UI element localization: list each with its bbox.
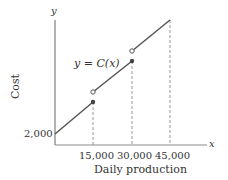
open-point-30000	[130, 49, 134, 53]
y-tick-2000: 2,000	[24, 128, 53, 139]
segment-3	[132, 20, 170, 51]
y-axis-label: Cost	[9, 72, 22, 102]
chart-plot	[0, 0, 228, 180]
segment-1	[55, 102, 93, 134]
x-tick-30000: 30,000	[117, 150, 152, 161]
curve-label: y = C(x)	[74, 57, 120, 70]
x-tick-15000: 15,000	[79, 150, 114, 161]
x-tick-45000: 45,000	[155, 150, 190, 161]
x-axis-label: Daily production	[94, 163, 187, 176]
open-point-15000	[91, 90, 95, 94]
y-axis-symbol: y	[51, 5, 57, 16]
closed-point-30000	[130, 59, 134, 63]
cost-chart: y x y = C(x) 2,000 15,000 30,000 45,000 …	[0, 0, 228, 180]
x-axis-symbol: x	[209, 138, 215, 149]
closed-point-15000	[91, 100, 95, 104]
